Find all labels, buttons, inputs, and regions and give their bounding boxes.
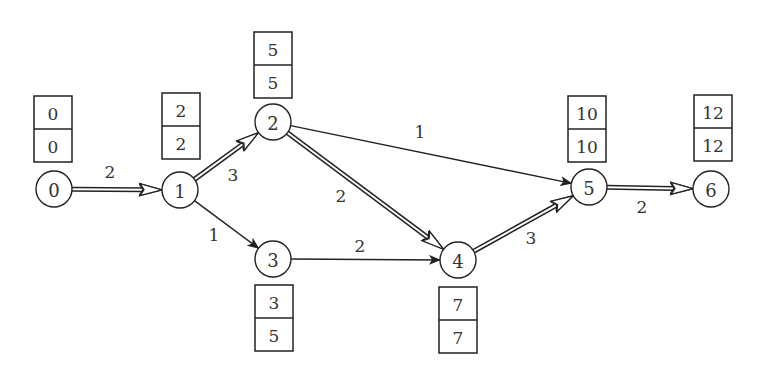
node-label: 3 (267, 250, 278, 271)
edge-weight-label: 3 (526, 228, 537, 248)
node-label: 2 (267, 113, 278, 134)
edge-weight-label: 3 (228, 165, 239, 185)
node-4: 4 (440, 242, 476, 278)
node-label: 0 (48, 180, 59, 201)
latest-time: 7 (453, 328, 464, 348)
earliest-time: 5 (268, 40, 279, 60)
time-box-node-4: 77 (439, 287, 477, 353)
earliest-time: 0 (48, 104, 59, 124)
edge-weight-label: 2 (355, 236, 366, 256)
edge-weight-label: 2 (105, 162, 116, 182)
node-label: 6 (705, 180, 716, 201)
node-3: 3 (255, 241, 291, 277)
time-box-node-0: 00 (34, 96, 72, 162)
activity-network-diagram: 23112232 002255357710101212 0123456 (0, 0, 765, 376)
time-box-node-3: 35 (255, 285, 293, 351)
edge-0-1 (72, 184, 162, 196)
time-box-node-1: 22 (162, 93, 200, 159)
edge-weight-label: 1 (415, 122, 426, 142)
latest-time: 12 (702, 136, 724, 156)
edge-3-4 (291, 259, 440, 260)
open-arrowhead-icon (140, 184, 162, 196)
node-6: 6 (693, 171, 729, 207)
earliest-time: 10 (576, 104, 598, 124)
node-label: 1 (174, 181, 185, 202)
node-2: 2 (255, 104, 291, 140)
latest-time: 0 (48, 137, 59, 157)
node-label: 5 (583, 178, 594, 199)
latest-time: 2 (176, 134, 187, 154)
time-boxes-layer: 002255357710101212 (34, 32, 732, 353)
edge-1-2 (195, 133, 259, 180)
edge-2-4 (287, 133, 443, 249)
edge-1-3 (194, 201, 258, 249)
latest-time: 10 (576, 137, 598, 157)
edge-weight-label: 2 (336, 186, 347, 206)
earliest-time: 7 (453, 295, 464, 315)
edge-5-6 (607, 182, 693, 194)
time-box-node-2: 55 (254, 32, 292, 98)
edge-2-5 (291, 126, 572, 184)
edge-weight-label: 1 (209, 225, 220, 245)
node-1: 1 (162, 172, 198, 208)
earliest-time: 12 (702, 103, 724, 123)
node-5: 5 (571, 169, 607, 205)
time-box-node-5: 1010 (568, 96, 606, 162)
node-0: 0 (36, 171, 72, 207)
time-box-node-6: 1212 (694, 95, 732, 161)
open-arrowhead-icon (671, 182, 693, 194)
earliest-time: 3 (269, 293, 280, 313)
latest-time: 5 (268, 73, 279, 93)
node-label: 4 (452, 251, 463, 272)
edge-weight-label: 2 (637, 197, 648, 217)
latest-time: 5 (269, 326, 280, 346)
edge-4-5 (474, 196, 574, 251)
earliest-time: 2 (176, 101, 187, 121)
